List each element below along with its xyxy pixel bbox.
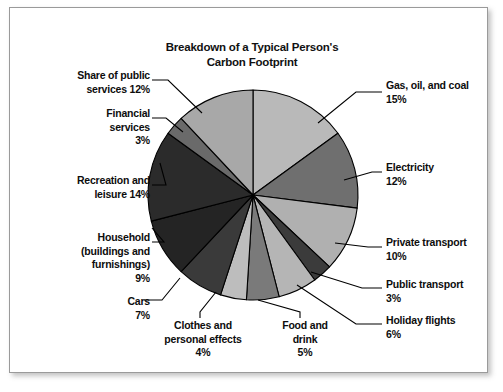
chart-title-line-2: Carbon Footprint	[152, 55, 352, 70]
leader-line-clothes	[200, 292, 216, 318]
chart-title: Breakdown of a Typical Person's Carbon F…	[152, 40, 352, 70]
slice-label-financial-services: Financial services 3%	[28, 107, 150, 148]
slice-label-public-transport: Public transport 3%	[386, 278, 498, 305]
slice-label-recreation-leisure: Recreation and leisure 14%	[28, 174, 150, 201]
slice-label-private-transport: Private transport 10%	[386, 236, 498, 263]
slice-label-gas-oil-coal: Gas, oil, and coal 15%	[386, 79, 498, 106]
slice-label-household: Household (buildings and furnishings) 9%	[28, 231, 150, 285]
slice-label-food-drink: Food and drink 5%	[264, 319, 346, 360]
slice-label-clothes: Clothes and personal effects 4%	[150, 319, 256, 360]
chart-title-line-1: Breakdown of a Typical Person's	[152, 40, 352, 55]
slice-label-cars: Cars 7%	[28, 295, 150, 322]
leader-line-gas	[318, 92, 382, 123]
pie-slice-group	[148, 90, 358, 300]
slice-label-share-public-services: Share of public services 12%	[28, 69, 150, 96]
slice-label-electricity: Electricity 12%	[386, 161, 498, 188]
leader-line-food-drink	[258, 300, 300, 318]
slice-label-holiday-flights: Holiday flights 6%	[386, 314, 498, 341]
